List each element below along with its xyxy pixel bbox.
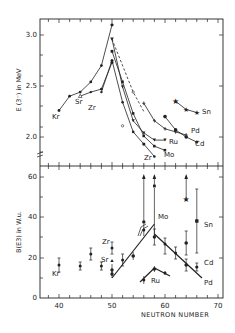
label-kr-top: Kr <box>52 113 60 121</box>
curve-mo <box>112 51 165 150</box>
label-sr-top: Sr <box>75 98 82 106</box>
ytick-20: 20 <box>28 254 37 262</box>
label-sn-bottom: Sn <box>204 221 213 229</box>
curve-dashed <box>112 39 144 111</box>
ytick-3.0: 3.0 <box>26 31 37 39</box>
xtick-40: 40 <box>55 302 64 310</box>
svg-text:★: ★ <box>194 109 200 117</box>
label-zr-top-1: Zr <box>88 104 96 112</box>
svg-text:★: ★ <box>183 195 190 204</box>
top-panel-markers: ★★★ <box>58 23 200 158</box>
nuclear-octupole-figure: 3.0 2.5 2.0 60 40 20 0 40 50 60 70 NEUTR… <box>0 0 235 333</box>
bottom-panel-markers: ★ <box>58 185 199 282</box>
svg-text:★: ★ <box>172 97 179 106</box>
label-pd-top: Pd <box>191 127 200 135</box>
svg-text:★: ★ <box>183 106 189 114</box>
curve-kr <box>59 25 112 111</box>
upper-limit-arrows <box>142 174 188 179</box>
x-axis-label: NEUTRON NUMBER <box>141 311 209 319</box>
trend-mo <box>112 224 154 278</box>
isolated-point <box>121 125 123 127</box>
label-cd-bottom: Cd <box>204 259 213 267</box>
top-panel-curves <box>59 25 197 157</box>
curve-zr <box>101 61 154 157</box>
xtick-50: 50 <box>108 302 117 310</box>
ytick-2.5: 2.5 <box>26 82 37 90</box>
xtick-70: 70 <box>214 302 223 310</box>
label-zr-top-2: Zr <box>144 154 152 162</box>
label-ru-top: Ru <box>169 138 178 146</box>
label-sn-top: Sn <box>202 108 211 116</box>
label-mo-top: Mo <box>164 151 174 159</box>
label-pd-bottom: Pd <box>204 279 213 287</box>
label-kr-bottom: Kr <box>52 270 60 278</box>
label-sr-bottom: Sr <box>101 256 108 264</box>
curve-sr <box>80 63 112 97</box>
trend-lines <box>112 224 202 282</box>
y-axis-label-bottom: B(E3) in W.u. <box>15 211 23 253</box>
label-zr-bottom: Zr <box>102 238 110 246</box>
ytick-60: 60 <box>28 173 37 181</box>
label-mo-bottom: Mo <box>158 213 168 221</box>
xtick-60: 60 <box>161 302 170 310</box>
ytick-0: 0 <box>33 294 37 302</box>
label-ru-bottom: Ru <box>151 277 160 285</box>
ytick-40: 40 <box>28 213 37 221</box>
ytick-2.0: 2.0 <box>26 133 37 141</box>
label-cd-top: Cd <box>195 140 204 148</box>
error-bars <box>58 176 199 284</box>
y-axis-label-top: E (3⁻) in MeV <box>15 68 23 111</box>
